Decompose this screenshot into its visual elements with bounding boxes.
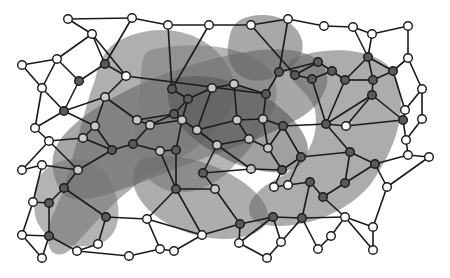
graph-node — [199, 169, 208, 178]
graph-node — [247, 165, 256, 174]
graph-node — [60, 107, 69, 116]
graph-node — [235, 239, 244, 248]
graph-node — [371, 160, 380, 169]
graph-node — [297, 153, 306, 162]
graph-node — [306, 178, 315, 187]
graph-node — [279, 122, 288, 131]
graph-node — [101, 60, 110, 69]
graph-node — [156, 147, 165, 156]
graph-node — [193, 126, 202, 135]
graph-node — [404, 22, 413, 31]
graph-edge — [22, 59, 57, 65]
graph-node — [128, 14, 137, 23]
graph-node — [101, 93, 110, 102]
graph-node — [172, 185, 181, 194]
graph-node — [270, 183, 279, 192]
graph-node — [369, 223, 378, 232]
graph-node — [341, 179, 350, 188]
graph-node — [45, 232, 54, 241]
network-diagram — [0, 0, 450, 278]
graph-edge — [408, 58, 422, 89]
graph-edge — [68, 18, 132, 19]
graph-node — [205, 21, 214, 30]
graph-node — [91, 122, 100, 131]
graph-node — [284, 181, 293, 190]
graph-node — [18, 166, 27, 175]
graph-node — [259, 115, 268, 124]
graph-edge — [57, 34, 92, 59]
graph-node — [269, 213, 278, 222]
graph-node — [198, 231, 207, 240]
graph-node — [263, 254, 272, 263]
graph-node — [102, 213, 111, 222]
graph-node — [247, 21, 256, 30]
graph-node — [401, 106, 410, 115]
graph-node — [314, 245, 323, 254]
graph-node — [368, 91, 377, 100]
graph-node — [94, 240, 103, 249]
graph-node — [74, 166, 83, 175]
graph-node — [208, 84, 217, 93]
graph-node — [236, 220, 245, 229]
graph-node — [31, 124, 40, 133]
graph-node — [418, 85, 427, 94]
graph-edge — [35, 88, 42, 128]
graph-node — [143, 215, 152, 224]
graph-node — [364, 53, 373, 62]
graph-node — [108, 146, 117, 155]
graph-node — [170, 247, 179, 256]
graph-edge — [387, 157, 429, 187]
graph-node — [319, 193, 328, 202]
graph-node — [170, 110, 179, 119]
graph-node — [320, 22, 329, 31]
graph-node — [349, 23, 358, 32]
graph-node — [368, 30, 377, 39]
graph-node — [404, 54, 413, 63]
graph-edge — [132, 18, 168, 25]
graph-node — [184, 95, 193, 104]
graph-node — [262, 90, 271, 99]
graph-node — [342, 122, 351, 131]
graph-node — [245, 135, 254, 144]
graph-node — [322, 120, 331, 129]
graph-node — [79, 134, 88, 143]
graph-node — [404, 151, 413, 160]
graph-node — [213, 141, 222, 150]
graph-node — [264, 144, 273, 153]
graph-node — [178, 116, 187, 125]
graph-node — [18, 231, 27, 240]
graph-node — [18, 61, 27, 70]
graph-node — [284, 15, 293, 24]
graph-node — [45, 199, 54, 208]
graph-node — [383, 183, 392, 192]
graph-node — [64, 15, 73, 24]
graph-node — [73, 247, 82, 256]
graph-node — [346, 148, 355, 157]
graph-node — [399, 116, 408, 125]
graph-edge — [302, 217, 345, 218]
graph-node — [275, 68, 284, 77]
graph-node — [172, 146, 181, 155]
graph-node — [291, 71, 300, 80]
graph-node — [278, 166, 287, 175]
graph-node — [146, 121, 155, 130]
graph-node — [314, 58, 323, 67]
graph-node — [211, 185, 220, 194]
graph-node — [341, 213, 350, 222]
graph-node — [233, 116, 242, 125]
graph-node — [38, 84, 47, 93]
graph-node — [402, 136, 411, 145]
graph-node — [38, 254, 47, 263]
graph-node — [129, 140, 138, 149]
graph-node — [389, 67, 398, 76]
graph-node — [341, 76, 350, 85]
graph-node — [75, 77, 84, 86]
graph-node — [369, 246, 378, 255]
graph-node — [277, 238, 286, 247]
graph-node — [156, 245, 165, 254]
graph-node — [29, 198, 38, 207]
graph-node — [133, 116, 142, 125]
graph-edge — [22, 202, 33, 235]
graph-edge — [373, 187, 387, 227]
graph-node — [327, 232, 336, 241]
